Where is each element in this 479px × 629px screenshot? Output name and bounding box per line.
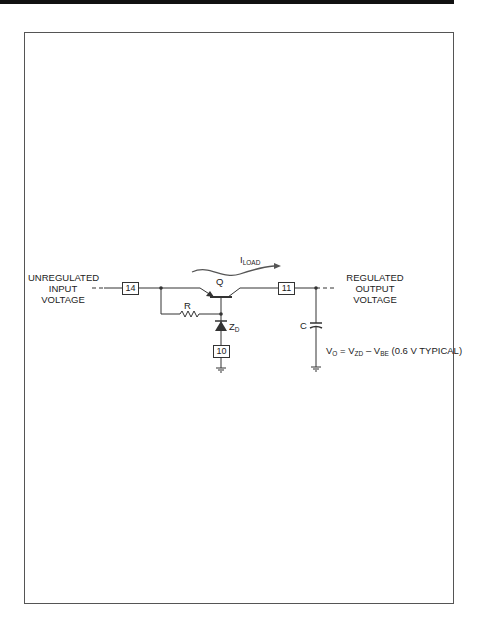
transistor-collector — [228, 288, 240, 297]
pin-14: 14 — [122, 282, 139, 295]
circuit-schematic — [0, 0, 479, 629]
junction-dot — [314, 286, 318, 290]
capacitor-label: C — [300, 320, 307, 331]
zener-triangle — [215, 321, 227, 331]
output-label: REGULATED OUTPUT VOLTAGE — [340, 272, 410, 305]
pin-10: 10 — [213, 345, 230, 358]
resistor-symbol — [180, 311, 199, 317]
junction-dot — [219, 312, 223, 316]
load-current-label: ILOAD — [240, 254, 260, 268]
resistor-label: R — [184, 300, 191, 311]
junction-dot — [159, 286, 163, 290]
pin-11: 11 — [278, 282, 295, 295]
transistor-label: Q — [216, 276, 223, 287]
zener-label: ZD — [229, 321, 240, 335]
load-current-arrow — [192, 266, 274, 275]
output-voltage-formula: VO = VZD – VBE (0.6 V TYPICAL) — [326, 345, 462, 359]
emitter-arrowhead — [206, 291, 214, 297]
input-label: UNREGULATED INPUT VOLTAGE — [28, 272, 98, 305]
